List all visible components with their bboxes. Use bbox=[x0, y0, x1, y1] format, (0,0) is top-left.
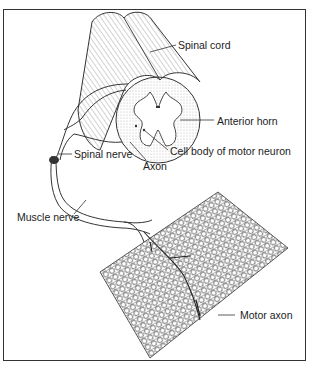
label-anterior-horn: Anterior horn bbox=[217, 116, 278, 127]
label-spinal-nerve: Spinal nerve bbox=[74, 149, 132, 160]
muscle-fibers bbox=[100, 192, 288, 358]
label-axon: Axon bbox=[143, 161, 167, 172]
spinal-nerve-ganglion bbox=[49, 156, 59, 164]
label-spinal-cord: Spinal cord bbox=[178, 40, 231, 51]
label-motor-axon: Motor axon bbox=[240, 310, 293, 321]
label-muscle-nerve: Muscle nerve bbox=[17, 212, 79, 223]
label-cell-body-of-motor-neuron: Cell body of motor neuron bbox=[170, 146, 291, 157]
